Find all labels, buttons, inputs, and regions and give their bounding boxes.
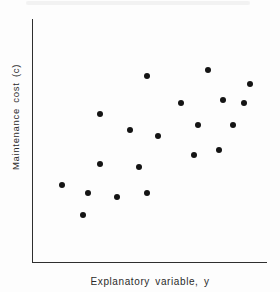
scatter-plot-figure: Maintenance cost (c) Explanatory variabl… [0, 0, 280, 292]
scatter-point [247, 81, 253, 87]
scatter-point [136, 164, 142, 170]
scatter-point [97, 161, 103, 167]
scatter-point [97, 111, 103, 117]
scatter-point [230, 122, 236, 128]
scatter-point [178, 100, 184, 106]
scatter-point [127, 127, 133, 133]
y-axis-label: Maintenance cost (c) [10, 64, 21, 170]
plot-area [32, 19, 267, 263]
scatter-point [195, 122, 201, 128]
scatter-point [191, 152, 197, 158]
scatter-point [85, 190, 91, 196]
scatter-point [114, 194, 120, 200]
scatter-point [59, 182, 65, 188]
scatter-point [205, 67, 211, 73]
scatter-point [241, 100, 247, 106]
scatter-point [144, 73, 150, 79]
scatter-point [144, 190, 150, 196]
scatter-point [155, 133, 161, 139]
scan-smudge-artifact [26, 1, 250, 5]
scatter-points-layer [33, 19, 267, 263]
scatter-point [220, 97, 226, 103]
scatter-point [216, 147, 222, 153]
x-axis-label: Explanatory variable, y [91, 276, 210, 287]
scatter-point [80, 212, 86, 218]
